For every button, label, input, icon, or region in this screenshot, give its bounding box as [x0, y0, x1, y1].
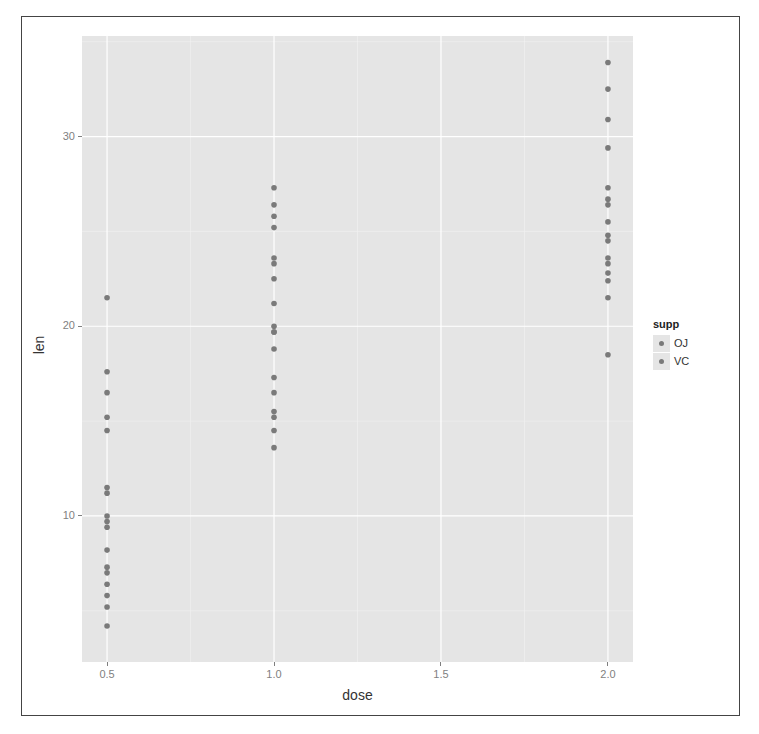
data-point [104, 570, 110, 576]
data-point [605, 295, 611, 301]
data-point [271, 329, 277, 335]
data-point [271, 428, 277, 434]
data-point [104, 519, 110, 525]
data-point [271, 255, 277, 261]
data-point [104, 623, 110, 629]
x-tick [107, 662, 108, 666]
x-tick-label: 1.0 [254, 668, 294, 680]
data-point [104, 295, 110, 301]
point-icon [659, 359, 664, 364]
data-point [271, 276, 277, 282]
legend-key-vc [653, 353, 670, 370]
data-point [271, 213, 277, 219]
legend-item-oj: OJ [653, 334, 689, 352]
y-tick [78, 515, 82, 516]
data-point [271, 346, 277, 352]
y-tick-label: 30 [45, 130, 75, 142]
data-point [605, 60, 611, 66]
data-point [605, 238, 611, 244]
data-point [104, 604, 110, 610]
legend: supp OJ VC [653, 318, 689, 370]
legend-title: supp [653, 318, 689, 330]
data-point [271, 414, 277, 420]
x-tick-label: 1.5 [421, 668, 461, 680]
y-tick-label: 10 [45, 509, 75, 521]
legend-label-oj: OJ [674, 337, 688, 349]
data-point [271, 323, 277, 329]
x-tick [607, 662, 608, 666]
data-point [605, 86, 611, 92]
data-point [605, 219, 611, 225]
y-tick-label: 20 [45, 319, 75, 331]
data-point [271, 301, 277, 307]
data-point [605, 117, 611, 123]
data-point [271, 261, 277, 267]
data-point [605, 278, 611, 284]
data-point [104, 593, 110, 599]
data-point [104, 390, 110, 396]
data-point [605, 196, 611, 202]
data-point [271, 390, 277, 396]
data-point [104, 547, 110, 553]
legend-item-vc: VC [653, 352, 689, 370]
data-point [104, 581, 110, 587]
data-point [605, 185, 611, 191]
data-point [104, 428, 110, 434]
data-point [271, 202, 277, 208]
data-point [104, 485, 110, 491]
data-point [271, 375, 277, 381]
data-point [104, 369, 110, 375]
legend-label-vc: VC [674, 355, 689, 367]
data-point [605, 232, 611, 238]
data-point [605, 202, 611, 208]
data-point [271, 185, 277, 191]
data-point [104, 513, 110, 519]
y-axis-title: len [31, 325, 47, 365]
data-point [605, 145, 611, 151]
x-tick-label: 0.5 [87, 668, 127, 680]
x-tick [440, 662, 441, 666]
x-tick-label: 2.0 [588, 668, 628, 680]
data-point [271, 445, 277, 451]
data-point [605, 352, 611, 358]
data-point [605, 270, 611, 276]
x-tick [274, 662, 275, 666]
plot-panel [82, 36, 633, 662]
legend-key-oj [653, 335, 670, 352]
data-point [605, 255, 611, 261]
data-point [605, 261, 611, 267]
data-point [271, 225, 277, 231]
data-point [104, 525, 110, 531]
y-tick [78, 326, 82, 327]
data-point [104, 490, 110, 496]
point-icon [659, 341, 664, 346]
data-point [271, 409, 277, 415]
x-axis-title: dose [318, 687, 398, 703]
data-point [104, 564, 110, 570]
scatter-plot-area [82, 36, 633, 662]
data-point [104, 414, 110, 420]
y-tick [78, 136, 82, 137]
